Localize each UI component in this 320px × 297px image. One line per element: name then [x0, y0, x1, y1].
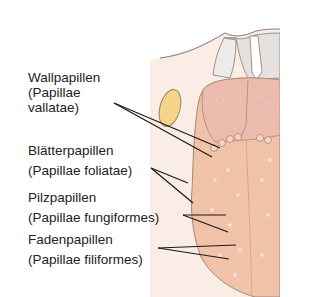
label-latin-1: (Papillae	[28, 85, 100, 100]
tongue-root	[202, 78, 280, 142]
label-latin: (Papillae filiformes)	[28, 252, 143, 267]
label-latin: (Papillae foliatae)	[28, 163, 132, 178]
label-blaetterpapillen: Blätterpapillen (Papillae foliatae)	[28, 143, 132, 178]
label-fadenpapillen: Fadenpapillen (Papillae filiformes)	[28, 232, 143, 267]
label-latin-2: vallatae)	[28, 100, 100, 115]
label-wallpapillen: Wallpapillen (Papillae vallatae)	[28, 70, 100, 115]
label-pilzpapillen: Pilzpapillen (Papillae fungiformes)	[28, 190, 159, 225]
label-name: Wallpapillen	[28, 70, 100, 85]
label-name: Fadenpapillen	[28, 232, 143, 247]
label-name: Blätterpapillen	[28, 143, 132, 158]
label-name: Pilzpapillen	[28, 190, 159, 205]
label-latin: (Papillae fungiformes)	[28, 210, 159, 225]
